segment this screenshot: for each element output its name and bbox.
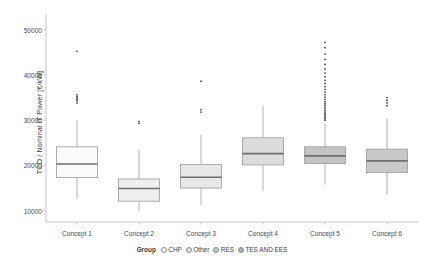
outlier-point bbox=[386, 102, 388, 104]
outlier-point bbox=[324, 83, 326, 85]
outlier-point bbox=[200, 111, 202, 113]
legend-item-label: TES AND EES bbox=[245, 246, 287, 253]
outlier-point bbox=[324, 79, 326, 81]
outlier-point bbox=[76, 94, 78, 96]
outlier-point bbox=[324, 106, 326, 108]
outlier-point bbox=[324, 47, 326, 49]
outlier-point bbox=[76, 96, 78, 98]
outlier-point bbox=[386, 97, 388, 99]
legend-item[interactable]: RES bbox=[213, 246, 234, 253]
outlier-point bbox=[76, 102, 78, 104]
legend-swatch-icon bbox=[161, 247, 167, 253]
legend-item-label: CHP bbox=[168, 246, 182, 253]
outlier-point bbox=[324, 94, 326, 96]
outlier-point bbox=[200, 80, 202, 82]
box-rect[interactable] bbox=[119, 179, 160, 201]
outlier-point bbox=[324, 72, 326, 74]
legend-item[interactable]: Other bbox=[186, 246, 209, 253]
outlier-point bbox=[324, 91, 326, 93]
legend-item-label: RES bbox=[221, 246, 234, 253]
outlier-point bbox=[324, 108, 326, 110]
legend-title: Group bbox=[137, 246, 156, 253]
outlier-point bbox=[324, 86, 326, 88]
box-rect[interactable] bbox=[181, 165, 222, 189]
legend-swatch-icon bbox=[238, 247, 244, 253]
outlier-point bbox=[138, 122, 140, 124]
outlier-point bbox=[324, 68, 326, 70]
outlier-point bbox=[324, 53, 326, 55]
legend-item-label: Other bbox=[193, 246, 209, 253]
outlier-point bbox=[386, 105, 388, 107]
outlier-point bbox=[324, 76, 326, 78]
legend-item[interactable]: TES AND EES bbox=[238, 246, 287, 253]
plot-canvas bbox=[0, 0, 424, 265]
box-rect[interactable] bbox=[243, 138, 284, 165]
outlier-point bbox=[324, 110, 326, 112]
boxplot-figure: TCO / Nominal IT Power [€/kW] 1000020000… bbox=[0, 0, 424, 265]
outlier-point bbox=[324, 96, 326, 98]
outlier-point bbox=[138, 121, 140, 123]
outlier-point bbox=[324, 41, 326, 43]
outlier-point bbox=[324, 98, 326, 100]
legend: Group CHPOtherRESTES AND EES bbox=[0, 246, 424, 253]
outlier-point bbox=[324, 101, 326, 103]
box-rect[interactable] bbox=[57, 147, 98, 178]
legend-item[interactable]: CHP bbox=[161, 246, 182, 253]
outlier-point bbox=[324, 59, 326, 61]
outlier-point bbox=[324, 104, 326, 106]
outlier-point bbox=[76, 50, 78, 52]
outlier-point bbox=[324, 64, 326, 66]
outlier-point bbox=[386, 99, 388, 101]
outlier-point bbox=[324, 103, 326, 105]
outlier-point bbox=[200, 109, 202, 111]
legend-swatch-icon bbox=[213, 247, 219, 253]
outlier-point bbox=[324, 88, 326, 90]
legend-swatch-icon bbox=[186, 247, 192, 253]
